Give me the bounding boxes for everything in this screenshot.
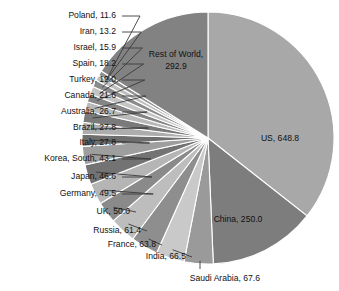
slice-callout-label: Korea, South, 43.1 (44, 153, 116, 163)
slice-callout-label: Poland, 11.6 (68, 10, 116, 20)
slice-callout-label: Germany, 49.5 (60, 188, 116, 198)
slice-callout-label: India, 66.5 (146, 251, 186, 261)
slice-callout-label: Spain, 18.2 (73, 58, 117, 68)
slice-callout-label: Canada, 21.6 (64, 90, 116, 100)
slice-callout-label: Turkey, 19.0 (69, 74, 116, 84)
slice-callout-label: Israel, 15.9 (73, 42, 116, 52)
pie-chart: US, 648.8China, 250.0Rest of World,292.9… (0, 0, 339, 291)
slice-callout-label: Japan, 46.6 (71, 171, 116, 181)
slice-callout-label: France, 63.8 (108, 239, 156, 249)
slice-callout-label: Iran, 13.2 (80, 26, 117, 36)
slice-callout-label: Italy, 27.8 (79, 137, 116, 147)
slice-callout-label: UK, 50.0 (97, 206, 131, 216)
slice-callout-label: Australia, 26.7 (61, 106, 116, 116)
pie-chart-container: US, 648.8China, 250.0Rest of World,292.9… (0, 0, 339, 291)
slice-callout-label: Brazil, 27.8 (73, 122, 116, 132)
slice-inside-label: China, 250.0 (214, 214, 263, 224)
slice-inside-label: Rest of World, (149, 49, 203, 59)
slice-callout-label: Russia, 61.4 (93, 225, 141, 235)
slice-callout-label: Saudi Arabia, 67.6 (190, 273, 260, 283)
slice-inside-label: 292.9 (165, 61, 187, 71)
slice-inside-label: US, 648.8 (261, 133, 299, 143)
